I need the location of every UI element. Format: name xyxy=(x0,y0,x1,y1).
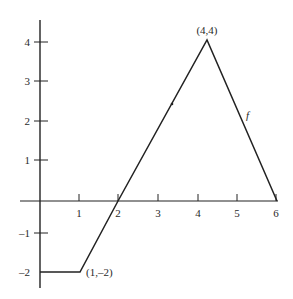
graph-canvas: 4 3 2 1 –1 –2 1 2 3 4 5 6 (4,4) (1,–2) f xyxy=(0,0,293,299)
x-tick-label-6: 6 xyxy=(273,207,279,219)
function-label: f xyxy=(246,109,251,121)
corner-annotation: (1,–2) xyxy=(86,266,113,279)
y-tick-label-3: 3 xyxy=(25,75,31,87)
y-ticks xyxy=(34,42,48,233)
x-tick-label-3: 3 xyxy=(155,207,161,219)
y-tick-label-1: 1 xyxy=(25,154,31,166)
x-tick-label-2: 2 xyxy=(115,207,121,219)
y-tick-label-neg1: –1 xyxy=(18,227,30,239)
function-f-line xyxy=(40,40,277,272)
y-tick-label-neg2: –2 xyxy=(18,266,30,278)
peak-annotation: (4,4) xyxy=(196,24,217,37)
x-tick-label-5: 5 xyxy=(234,207,240,219)
function-graph: 4 3 2 1 –1 –2 1 2 3 4 5 6 (4,4) (1,–2) f xyxy=(0,0,293,299)
x-tick-label-1: 1 xyxy=(76,207,82,219)
y-tick-label-4: 4 xyxy=(25,36,31,48)
x-tick-label-4: 4 xyxy=(195,207,201,219)
x-ticks xyxy=(79,194,276,201)
arrow-dot xyxy=(171,103,174,106)
y-tick-label-2: 2 xyxy=(25,115,31,127)
